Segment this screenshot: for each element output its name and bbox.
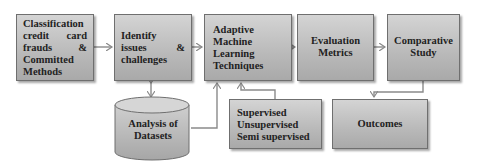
node-label: Study — [410, 47, 436, 59]
node-label: Comparative — [394, 35, 453, 47]
node-label: Committed — [23, 54, 87, 66]
node-label: frauds & — [23, 42, 87, 54]
arrow-n5-n8 — [374, 81, 423, 97]
node-label: challenges — [121, 54, 185, 66]
node-label: Methods — [23, 66, 87, 78]
node-adaptive-ml: Adaptive Machine Learning Techniques — [204, 14, 292, 81]
node-outcomes: Outcomes — [332, 99, 428, 149]
node-label: Identify — [121, 30, 185, 42]
node-label: Outcomes — [358, 118, 403, 130]
node-learning-types: Supervised Unsupervised Semi supervised — [229, 99, 322, 149]
node-label: Adaptive — [213, 24, 285, 36]
node-evaluation-metrics: Evaluation Metrics — [297, 14, 374, 81]
arrow-n6-n3 — [191, 83, 217, 128]
node-label: Machine — [213, 36, 285, 48]
node-label: Supervised — [237, 107, 315, 119]
node-label: Unsupervised — [237, 119, 315, 131]
node-label: Datasets — [115, 130, 191, 142]
node-label: Classification — [23, 18, 87, 30]
node-identify-issues: Identify issues & challenges — [114, 14, 192, 81]
node-label: credit card — [23, 30, 87, 42]
arrow-n7-n3 — [241, 83, 275, 99]
node-label: Evaluation — [311, 35, 360, 47]
node-label: Techniques — [213, 60, 285, 72]
node-label: Analysis of — [115, 118, 191, 130]
node-label: Semi supervised — [237, 131, 315, 143]
node-comparative-study: Comparative Study — [387, 14, 460, 81]
node-label: Learning — [213, 48, 285, 60]
node-classification: Classification credit card frauds & Comm… — [16, 14, 94, 81]
node-datasets-label: Analysis of Datasets — [115, 118, 191, 142]
node-label: issues & — [121, 42, 185, 54]
node-label: Metrics — [318, 47, 352, 59]
